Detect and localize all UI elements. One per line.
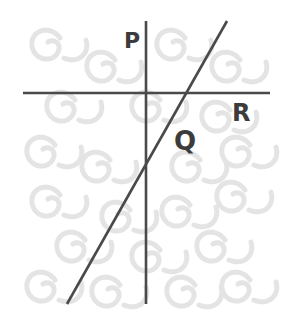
line-diagram: P Q R <box>0 0 293 330</box>
label-q: Q <box>174 126 196 156</box>
label-r: R <box>232 99 250 127</box>
label-p: P <box>124 28 140 53</box>
background-pattern <box>27 30 277 307</box>
